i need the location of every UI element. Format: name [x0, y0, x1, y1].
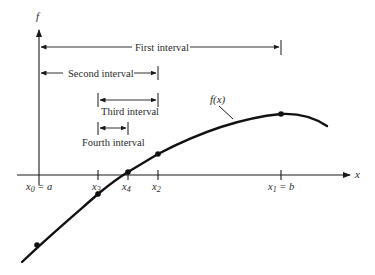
- fourth-interval: Fourth interval: [82, 122, 145, 148]
- tick-label-x2: x2: [151, 181, 161, 194]
- f-axis: f: [36, 10, 41, 185]
- tick-label-x1: x1 = b: [267, 181, 294, 194]
- first-interval: First interval: [41, 40, 281, 55]
- bisection-diagram: f x x0 = a x3 x4 x2 x1 = b First interva…: [0, 0, 375, 275]
- x-axis-label: x: [354, 168, 360, 180]
- curve-label: f(x): [210, 93, 233, 119]
- third-interval: Third interval: [98, 93, 159, 117]
- point-x2: [155, 151, 161, 157]
- fourth-interval-label: Fourth interval: [82, 137, 145, 148]
- second-interval: Second interval: [41, 66, 158, 80]
- tick-label-x4: x4: [121, 181, 131, 194]
- x-axis: x: [17, 168, 360, 180]
- curve-label-text: f(x): [210, 93, 226, 106]
- f-axis-label: f: [36, 10, 41, 22]
- curve-points: [34, 111, 284, 248]
- point-x3: [95, 191, 101, 197]
- third-interval-label: Third interval: [101, 106, 159, 117]
- point-x4: [125, 169, 131, 175]
- first-interval-label: First interval: [135, 42, 189, 53]
- tick-label-x0: x0 = a: [25, 181, 52, 194]
- point-x1: [278, 111, 284, 117]
- second-interval-label: Second interval: [68, 68, 134, 79]
- point-x0: [34, 242, 40, 248]
